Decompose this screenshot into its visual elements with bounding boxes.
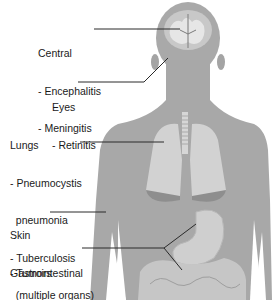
label-title: Skin [10, 229, 51, 242]
label-item: - Pneumocystis [10, 177, 94, 190]
label-title: Lungs [10, 139, 94, 152]
trachea-icon [182, 112, 188, 154]
label-gastrointestinal: Gastrointestinal - Esophagitis - Chronic… [10, 242, 94, 300]
label-title: Eyes [52, 101, 96, 114]
intestines-icon [138, 258, 246, 300]
label-title: Central [38, 47, 101, 60]
label-title: Gastrointestinal [10, 267, 94, 280]
brain-icon [164, 10, 212, 50]
